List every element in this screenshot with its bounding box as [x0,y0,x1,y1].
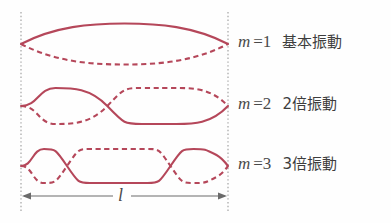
mode-1-waveform [21,24,228,65]
mode-1-solid-curve [21,24,228,45]
wave-diagram-svg [0,0,391,223]
mode-2-dashed-curve [21,88,228,124]
mode-1-dashed-curve [21,44,228,65]
mode-2-solid-curve [21,88,228,124]
length-dimension-arrow [22,193,227,200]
mode-3-dashed-curve [21,149,228,183]
mode-2-waveform [21,88,228,124]
standing-wave-figure: m =1 基本振動 m =2 2倍振動 m =3 3倍振動 l [0,0,391,223]
mode-3-solid-curve [21,149,228,183]
mode-3-waveform [21,149,228,183]
